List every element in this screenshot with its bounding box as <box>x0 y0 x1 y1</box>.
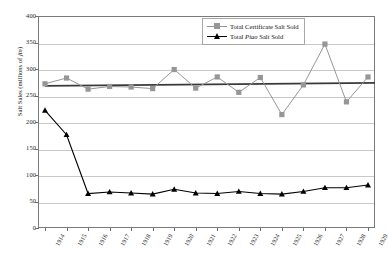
y-axis-title-text: Salt Sales (millions of jin) <box>16 47 23 116</box>
data-point-marker <box>215 74 220 79</box>
x-tick-mark <box>67 228 68 231</box>
x-tick-mark <box>217 228 218 231</box>
data-point-marker <box>301 82 306 87</box>
series-certificate-salt <box>42 41 370 117</box>
data-point-marker <box>171 186 177 191</box>
x-tick-label-1927: 1927 <box>334 233 346 247</box>
data-point-marker <box>322 41 327 46</box>
x-tick-label-1914: 1914 <box>54 233 66 247</box>
x-tick-label-1925: 1925 <box>291 233 303 247</box>
legend-label-certificate-salt: Total Certificate Salt Sold <box>230 23 299 30</box>
x-tick-mark <box>346 228 347 231</box>
legend-item-certificate-salt: Total Certificate Salt Sold <box>207 21 299 31</box>
y-tick-label: 150 <box>0 145 36 151</box>
x-tick-mark <box>260 228 261 231</box>
data-point-marker <box>150 86 155 91</box>
x-tick-label-1920: 1920 <box>183 233 195 247</box>
x-tick-mark <box>196 228 197 231</box>
data-point-marker <box>172 67 177 72</box>
chart-legend: Total Certificate Salt Sold Total Piao S… <box>202 18 305 45</box>
x-tick-label-1923: 1923 <box>248 233 260 247</box>
legend-marker-square-icon <box>207 22 227 31</box>
data-point-marker <box>64 75 69 80</box>
trendline-segment <box>45 83 375 86</box>
x-tick-mark <box>325 228 326 231</box>
data-point-marker <box>258 75 263 80</box>
y-tick-label: 300 <box>0 66 36 72</box>
x-tick-mark <box>153 228 154 231</box>
series-layer <box>38 16 375 228</box>
x-tick-label-1924: 1924 <box>270 233 282 247</box>
data-point-marker <box>42 107 48 112</box>
data-point-marker <box>85 87 90 92</box>
legend-marker-triangle-icon <box>207 32 227 41</box>
y-tick-label: 0 <box>0 225 36 231</box>
y-tick-label: 200 <box>0 119 36 125</box>
x-tick-label-1916: 1916 <box>97 233 109 247</box>
y-tick-label: 400 <box>0 13 36 19</box>
x-tick-mark <box>239 228 240 231</box>
x-tick-mark <box>303 228 304 231</box>
series-line <box>45 110 368 194</box>
y-axis-unit-italic: jin <box>16 49 23 56</box>
data-point-marker <box>279 112 284 117</box>
x-tick-label-1922: 1922 <box>227 233 239 247</box>
x-tick-mark <box>131 228 132 231</box>
legend-label-piao-italic: Piao <box>245 33 257 40</box>
data-point-marker <box>129 84 134 89</box>
x-tick-mark <box>282 228 283 231</box>
x-tick-mark <box>110 228 111 231</box>
y-tick-label: 50 <box>0 198 36 204</box>
y-tick-mark <box>35 228 38 229</box>
x-tick-mark <box>45 228 46 231</box>
x-tick-label-1929: 1929 <box>377 233 389 247</box>
x-tick-label-1921: 1921 <box>205 233 217 247</box>
x-tick-label-1918: 1918 <box>140 233 152 247</box>
data-point-marker <box>107 84 112 89</box>
data-point-marker <box>344 99 349 104</box>
series-piao-salt <box>42 107 371 196</box>
series-line <box>45 44 368 114</box>
y-tick-label: 250 <box>0 92 36 98</box>
data-point-marker <box>193 85 198 90</box>
data-point-marker <box>365 74 370 79</box>
y-tick-label: 350 <box>0 39 36 45</box>
x-tick-mark <box>88 228 89 231</box>
data-point-marker <box>42 81 47 86</box>
y-tick-label: 100 <box>0 172 36 178</box>
trendline <box>45 83 375 86</box>
legend-label-piao-salt: Total Piao Salt Sold <box>230 33 283 40</box>
x-tick-label-1919: 1919 <box>162 233 174 247</box>
x-tick-mark <box>368 228 369 231</box>
x-tick-label-1917: 1917 <box>119 233 131 247</box>
y-axis-title: Salt Sales (millions of jin) <box>16 7 23 157</box>
data-point-marker <box>365 182 371 187</box>
legend-item-piao-salt: Total Piao Salt Sold <box>207 31 299 41</box>
x-tick-label-1926: 1926 <box>313 233 325 247</box>
x-tick-label-1928: 1928 <box>356 233 368 247</box>
data-point-marker <box>236 90 241 95</box>
x-tick-mark <box>174 228 175 231</box>
x-tick-label-1915: 1915 <box>76 233 88 247</box>
